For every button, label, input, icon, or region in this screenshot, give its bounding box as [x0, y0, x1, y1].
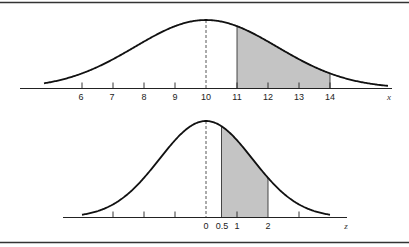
upper-tick-label-8: 8 [141, 92, 146, 102]
lower-tick-label-0: 0 [203, 221, 208, 231]
upper-tick-label-12: 12 [263, 92, 273, 102]
normal-distribution-figure: 6 7 8 9 10 11 12 13 14 x 0 0.5 1 2 z [0, 0, 409, 247]
lower-axis-label: z [343, 221, 348, 231]
lower-shaded-region [222, 126, 269, 217]
upper-shaded-region [237, 26, 330, 88]
lower-tick-label-1: 1 [234, 221, 239, 231]
upper-axis-label: x [386, 92, 391, 102]
lower-chart: 0 0.5 1 2 z [63, 121, 348, 231]
upper-normal-curve [44, 20, 388, 86]
upper-tick-label-13: 13 [294, 92, 304, 102]
upper-tick-label-11: 11 [232, 92, 241, 102]
upper-tick-label-14: 14 [325, 92, 335, 102]
upper-tick-label-9: 9 [172, 92, 177, 102]
upper-chart: 6 7 8 9 10 11 12 13 14 x [20, 20, 392, 102]
lower-tick-label-2: 2 [265, 221, 270, 231]
upper-tick-label-10: 10 [201, 92, 211, 102]
upper-tick-label-6: 6 [78, 92, 83, 102]
lower-tick-label-0-5: 0.5 [216, 221, 229, 231]
upper-tick-label-7: 7 [109, 92, 114, 102]
